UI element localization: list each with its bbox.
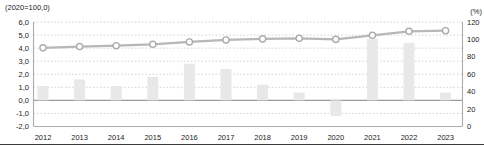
x-tick-2023: 2023 <box>437 133 454 142</box>
x-tick-2018: 2018 <box>254 133 271 142</box>
x-tick-2020: 2020 <box>327 133 344 142</box>
right-tick-label: 120 <box>467 18 480 27</box>
bar-2014 <box>111 86 122 100</box>
bar-2020 <box>330 100 341 116</box>
x-tick-2017: 2017 <box>218 133 235 142</box>
right-tick-label: 40 <box>467 87 475 96</box>
line-marker-2021 <box>369 32 375 38</box>
left-tick-label: 0,0 <box>19 96 29 105</box>
bottom-divider-line <box>0 144 484 145</box>
x-tick-2014: 2014 <box>108 133 125 142</box>
line-marker-2019 <box>296 35 302 41</box>
bar-2023 <box>440 93 451 101</box>
bar-2021 <box>367 39 378 100</box>
bar-2022 <box>404 43 415 100</box>
left-tick-label: -2,0 <box>16 122 29 131</box>
left-tick-label: -1,0 <box>16 109 29 118</box>
line-marker-2022 <box>406 28 412 34</box>
combo-chart-plot: 6,05,04,03,02,01,00,0-1,0-2,012010080604… <box>0 0 484 146</box>
right-tick-label: 100 <box>467 35 480 44</box>
line-marker-2015 <box>150 41 156 47</box>
x-tick-2012: 2012 <box>35 133 52 142</box>
x-tick-2015: 2015 <box>144 133 161 142</box>
bar-2016 <box>184 64 195 101</box>
bar-2013 <box>74 79 85 100</box>
right-axis-title: (%) <box>470 7 482 16</box>
chart-container: (2020=100,0) (%) 6,05,04,03,02,01,00,0-1… <box>0 0 484 146</box>
left-tick-label: 5,0 <box>19 31 29 40</box>
line-marker-2016 <box>186 39 192 45</box>
x-tick-2021: 2021 <box>364 133 381 142</box>
x-tick-2016: 2016 <box>181 133 198 142</box>
left-tick-label: 3,0 <box>19 57 29 66</box>
bar-2019 <box>294 93 305 101</box>
right-tick-label: 60 <box>467 70 475 79</box>
bar-2015 <box>147 77 158 101</box>
left-tick-label: 4,0 <box>19 44 29 53</box>
line-marker-2012 <box>40 45 46 51</box>
x-tick-2013: 2013 <box>71 133 88 142</box>
line-marker-2013 <box>77 43 83 49</box>
bar-2017 <box>221 69 232 100</box>
bar-2018 <box>257 85 268 101</box>
index-line-path <box>43 31 446 48</box>
line-marker-2017 <box>223 37 229 43</box>
left-tick-label: 2,0 <box>19 70 29 79</box>
right-tick-label: 0 <box>467 122 471 131</box>
bar-2012 <box>38 86 49 100</box>
right-tick-label: 80 <box>467 52 475 61</box>
left-axis-title: (2020=100,0) <box>5 3 50 12</box>
line-marker-2018 <box>260 36 266 42</box>
line-marker-2020 <box>333 36 339 42</box>
right-tick-label: 20 <box>467 105 475 114</box>
left-tick-label: 6,0 <box>19 18 29 27</box>
line-marker-2014 <box>113 43 119 49</box>
x-tick-2019: 2019 <box>291 133 308 142</box>
line-marker-2023 <box>443 28 449 34</box>
x-tick-2022: 2022 <box>401 133 418 142</box>
left-tick-label: 1,0 <box>19 83 29 92</box>
